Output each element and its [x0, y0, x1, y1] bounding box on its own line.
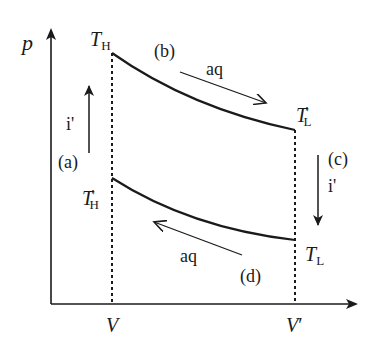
process-d-kind: aq — [180, 246, 197, 266]
process-a-label: (a) — [58, 152, 78, 173]
x-tick-v-prime: V′ — [286, 314, 303, 336]
y-axis-label: p — [20, 30, 33, 55]
x-tick-v: V — [106, 314, 121, 336]
lower-curve — [112, 178, 295, 240]
upper-curve — [112, 53, 295, 130]
process-c-kind: i' — [328, 176, 336, 196]
process-d-label: (d) — [240, 266, 261, 287]
process-c-label: (c) — [328, 149, 348, 170]
process-b-kind: aq — [206, 59, 223, 79]
label-top-left: TH — [90, 28, 111, 53]
label-bottom-right: TL — [305, 243, 324, 268]
label-top-right: T′L — [296, 104, 311, 129]
label-bottom-left: T′H — [82, 187, 99, 212]
process-a-kind: i' — [66, 114, 74, 134]
process-b-label: (b) — [154, 41, 175, 62]
pv-diagram: p V V′ TH T′L T′H TL i' (a) (b) aq (c) i… — [0, 0, 380, 356]
